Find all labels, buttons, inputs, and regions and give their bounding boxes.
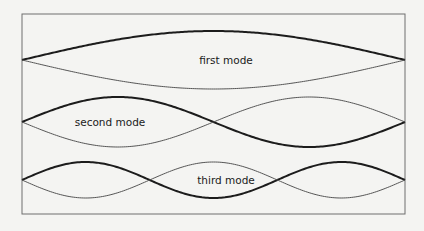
standing-wave-diagram: first mode second mode third mode [0,0,424,231]
third-mode-label: third mode [197,174,255,186]
first-mode-label: first mode [199,54,253,66]
second-mode-label: second mode [75,116,146,128]
